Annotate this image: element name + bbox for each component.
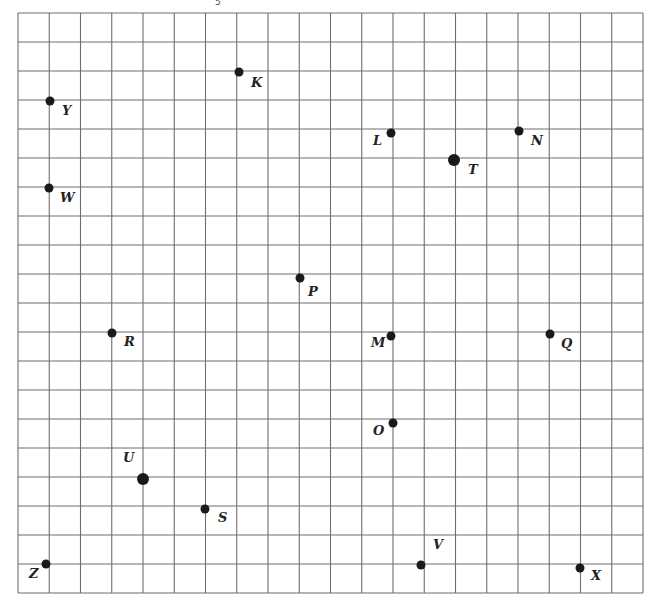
point-marker: [387, 332, 396, 341]
point-marker: [448, 154, 460, 166]
point-z: Z: [28, 560, 51, 582]
point-label: X: [590, 568, 602, 583]
point-x: X: [576, 564, 603, 584]
point-marker: [546, 330, 555, 339]
grid-diagram: 5 KYLNTWPRMQOUSVZX: [0, 0, 661, 611]
point-o: O: [373, 419, 398, 439]
point-marker: [296, 274, 305, 283]
point-label: N: [530, 133, 544, 148]
point-l: L: [372, 129, 396, 149]
point-marker: [108, 329, 117, 338]
point-label: P: [307, 284, 319, 299]
point-marker: [235, 68, 244, 77]
point-label: M: [370, 335, 386, 350]
point-marker: [515, 127, 524, 136]
grid-lines: [18, 13, 643, 593]
point-u: U: [123, 450, 149, 485]
point-marker: [42, 560, 51, 569]
point-marker: [201, 505, 210, 514]
point-label: K: [250, 75, 263, 90]
point-s: S: [201, 505, 228, 526]
point-label: W: [60, 190, 76, 205]
point-v: V: [417, 537, 446, 570]
point-marker: [137, 473, 149, 485]
point-label: U: [123, 450, 135, 465]
point-label: V: [433, 537, 445, 552]
point-marker: [387, 129, 396, 138]
point-label: T: [468, 162, 479, 177]
point-marker: [389, 419, 398, 428]
point-marker: [45, 184, 54, 193]
point-label: Q: [561, 336, 573, 351]
coordinate-grid: KYLNTWPRMQOUSVZX: [0, 0, 661, 611]
point-marker: [417, 561, 426, 570]
point-label: Z: [28, 566, 39, 581]
point-m: M: [370, 332, 396, 351]
point-label: R: [123, 334, 135, 349]
clipped-top-text: 5: [215, 0, 221, 7]
point-label: Y: [62, 103, 73, 118]
point-n: N: [515, 127, 545, 149]
point-label: O: [373, 423, 385, 438]
point-marker: [576, 564, 585, 573]
point-label: L: [372, 133, 382, 148]
point-label: S: [218, 510, 227, 525]
point-marker: [46, 97, 55, 106]
